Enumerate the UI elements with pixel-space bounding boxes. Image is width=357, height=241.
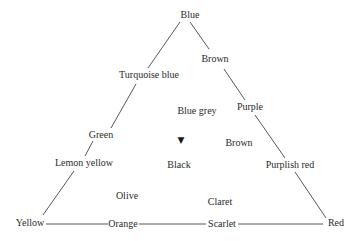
label-lemon-yellow: Lemon yellow	[55, 158, 113, 168]
triangle-marker-icon: ▼	[178, 136, 185, 145]
label-turquoise-blue: Turquoise blue	[119, 70, 179, 80]
label-blue: Blue	[181, 10, 200, 20]
edge-purple-purplishred	[255, 115, 285, 158]
label-green: Green	[89, 130, 113, 140]
label-orange: Orange	[108, 219, 137, 229]
edge-brown-purple	[224, 69, 245, 100]
label-claret: Claret	[208, 197, 232, 207]
edge-purplishred-red	[295, 172, 326, 218]
edge-green-lemon	[85, 141, 93, 156]
label-blue-grey: Blue grey	[177, 106, 216, 116]
edge-turquoise-green	[111, 84, 136, 128]
label-brown-top: Brown	[201, 54, 228, 64]
edge-lemon-yellow	[43, 171, 74, 215]
label-yellow: Yellow	[16, 218, 44, 228]
edge-blue-turquoise	[148, 22, 180, 68]
label-brown-mid: Brown	[225, 138, 252, 148]
label-scarlet: Scarlet	[208, 219, 236, 229]
label-purplish-red: Purplish red	[266, 160, 315, 170]
triangle-lines	[0, 0, 357, 241]
label-olive: Olive	[116, 191, 138, 201]
edge-blue-brown	[190, 22, 209, 49]
label-red: Red	[328, 218, 344, 228]
label-black: Black	[167, 160, 190, 170]
label-purple: Purple	[237, 102, 263, 112]
